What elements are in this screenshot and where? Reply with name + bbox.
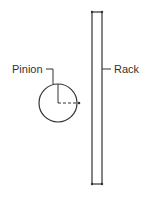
pinion-point: [78, 102, 81, 105]
pinion-label: Pinion: [12, 63, 43, 75]
pinion-leader: [46, 69, 53, 84]
rack-body: [92, 12, 102, 184]
rack-corner: [91, 183, 93, 185]
rack-label: Rack: [114, 63, 139, 75]
rack-corner: [91, 11, 93, 13]
rack-corner: [101, 183, 103, 185]
diagram-canvas: [0, 0, 148, 198]
rack-corner: [101, 11, 103, 13]
